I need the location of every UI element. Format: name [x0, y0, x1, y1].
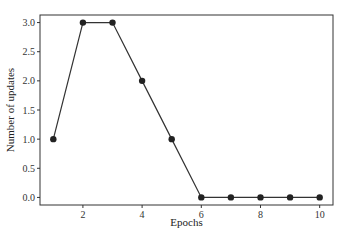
data-point-marker	[139, 78, 145, 84]
data-point-marker	[109, 19, 115, 25]
y-axis-label: Number of updates	[4, 68, 16, 152]
x-axis-label: Epochs	[170, 216, 202, 228]
data-point-marker	[316, 194, 322, 200]
y-tick-label: 3.0	[23, 17, 36, 28]
x-tick-label: 2	[80, 209, 85, 220]
y-tick-label: 2.0	[23, 75, 36, 86]
line-chart: 0.00.51.01.52.02.53.0 246810 Epochs Numb…	[0, 0, 345, 240]
x-tick-label: 8	[258, 209, 263, 220]
y-tick-label: 0.5	[23, 163, 36, 174]
y-tick-label: 2.5	[23, 46, 36, 57]
series-markers	[50, 19, 323, 200]
data-point-marker	[198, 194, 204, 200]
data-point-marker	[257, 194, 263, 200]
y-tick-label: 1.5	[23, 105, 36, 116]
series-line	[53, 23, 319, 198]
y-tick-label: 0.0	[23, 192, 36, 203]
data-point-marker	[169, 136, 175, 142]
data-point-marker	[50, 136, 56, 142]
y-tick-label: 1.0	[23, 134, 36, 145]
x-tick-label: 10	[315, 209, 325, 220]
data-point-marker	[287, 194, 293, 200]
y-axis-ticks: 0.00.51.01.52.02.53.0	[23, 17, 41, 203]
x-tick-label: 4	[140, 209, 145, 220]
data-point-marker	[80, 19, 86, 25]
plot-frame	[40, 15, 333, 205]
data-point-marker	[228, 194, 234, 200]
